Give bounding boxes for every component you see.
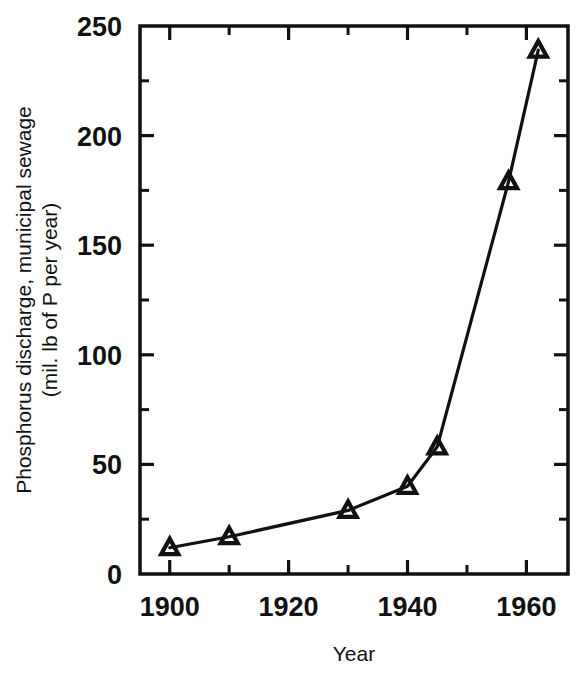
data-series-line [170,50,539,548]
x-tick-label: 1960 [496,592,556,622]
y-tick-label: 200 [77,122,122,152]
y-axis-title-line2: (mil. lb of P per year) [38,203,61,398]
axis-ticks [140,26,568,574]
y-tick-label: 100 [77,341,122,371]
x-tick-label: 1900 [140,592,200,622]
y-axis-title-line1: Phosphorus discharge, municipal sewage [12,106,35,494]
phosphorus-discharge-line-chart: 050100150200250 1900192019401960 Phospho… [0,0,584,684]
x-axis-tick-labels: 1900192019401960 [140,592,557,622]
x-tick-label: 1920 [259,592,319,622]
x-tick-label: 1940 [377,592,437,622]
data-point-markers [161,41,547,554]
y-axis-tick-labels: 050100150200250 [77,12,122,590]
y-tick-label: 150 [77,231,122,261]
plot-frame [140,26,568,574]
x-axis-title: Year [333,642,375,665]
y-tick-label: 50 [92,450,122,480]
chart-page: 050100150200250 1900192019401960 Phospho… [0,0,584,684]
y-tick-label: 0 [107,560,122,590]
y-tick-label: 250 [77,12,122,42]
